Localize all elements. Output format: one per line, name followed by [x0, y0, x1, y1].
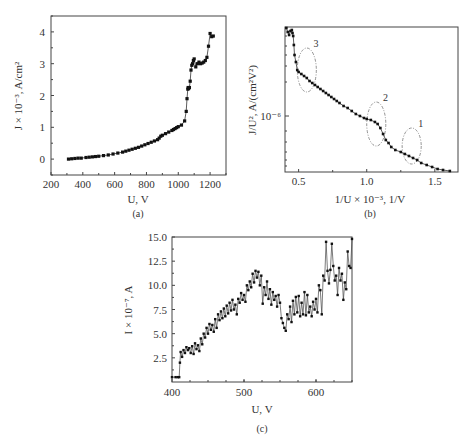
data-point [326, 270, 328, 272]
data-point [205, 56, 208, 59]
data-point [335, 274, 337, 276]
data-point [334, 279, 336, 281]
chart-a-line [69, 34, 214, 160]
data-point [251, 273, 253, 275]
x-tick-label: 400 [164, 386, 181, 398]
data-point [325, 241, 327, 243]
data-point [283, 327, 285, 329]
data-point [303, 291, 305, 293]
data-point [350, 110, 353, 113]
data-point [292, 35, 295, 38]
data-point [299, 315, 301, 317]
data-point [263, 286, 265, 288]
data-point [296, 311, 298, 313]
data-point [146, 142, 149, 145]
data-point [335, 100, 338, 103]
data-point [124, 150, 127, 153]
y-tick-label: 3 [40, 58, 46, 70]
data-point [121, 151, 124, 154]
data-point [295, 61, 298, 64]
data-point [127, 149, 130, 152]
data-point [404, 153, 407, 156]
data-point [341, 273, 343, 275]
data-point [226, 304, 228, 306]
data-point [204, 336, 206, 338]
data-point [153, 139, 156, 142]
data-point [254, 270, 256, 272]
data-point [325, 92, 328, 95]
data-point [116, 151, 119, 154]
data-point [214, 318, 216, 320]
data-point [230, 309, 232, 311]
data-point [266, 280, 268, 282]
data-point [420, 162, 423, 165]
data-point [244, 301, 246, 303]
data-point [161, 134, 164, 137]
data-point [300, 302, 302, 304]
data-point [280, 317, 282, 319]
data-point [282, 322, 284, 324]
data-point [171, 376, 173, 378]
x-tick-label: 600 [106, 178, 123, 190]
data-point [213, 331, 215, 333]
data-point [217, 313, 219, 315]
data-point [76, 157, 79, 160]
data-point [179, 351, 181, 353]
data-point [102, 154, 105, 157]
x-tick-label: 500 [236, 386, 253, 398]
data-point [267, 298, 269, 300]
data-point [143, 143, 146, 146]
data-point [188, 86, 191, 89]
data-point [277, 294, 279, 296]
data-point [256, 276, 258, 278]
data-point [314, 84, 317, 87]
data-point [174, 376, 176, 378]
data-point [290, 321, 292, 323]
data-point [370, 119, 373, 122]
chart-b-xlabel: 1/U × 10⁻³, 1/V [335, 193, 405, 205]
data-point [240, 292, 242, 294]
data-point [191, 62, 194, 65]
y-tick-label: 7.5 [153, 304, 167, 316]
data-point [315, 298, 317, 300]
data-point [321, 313, 323, 315]
x-tick-label: 0.5 [292, 175, 306, 187]
data-point [233, 308, 235, 310]
chart-a-xlabel: U, V [127, 193, 148, 205]
data-point [291, 29, 294, 32]
data-point [308, 311, 310, 313]
data-point [231, 299, 233, 301]
data-point [212, 34, 215, 37]
data-point [292, 300, 294, 302]
data-point [344, 281, 346, 283]
annotation-label: 3 [313, 38, 318, 49]
data-point [262, 303, 264, 305]
data-point [342, 299, 344, 301]
data-point [178, 376, 180, 378]
chart-b-markers [285, 27, 451, 173]
data-point [308, 80, 311, 83]
data-point [431, 166, 434, 169]
data-point [70, 157, 73, 160]
data-point [202, 332, 204, 334]
y-tick-label: 2 [40, 90, 46, 102]
data-point [243, 294, 245, 296]
data-point [319, 88, 322, 91]
x-tick-label: 600 [308, 386, 325, 398]
data-point [179, 361, 181, 363]
data-point [273, 299, 275, 301]
data-point [300, 73, 303, 76]
data-point [416, 159, 419, 162]
y-tick-label: 5.0 [153, 328, 167, 340]
data-point [390, 146, 393, 149]
data-point [264, 294, 266, 296]
data-point [286, 31, 289, 34]
annotation-label: 2 [383, 92, 388, 103]
data-point [227, 312, 229, 314]
data-point [310, 315, 312, 317]
data-point [269, 288, 271, 290]
data-point [328, 282, 330, 284]
annotation-ellipse [402, 128, 421, 164]
data-point [425, 164, 428, 167]
data-point [220, 310, 222, 312]
